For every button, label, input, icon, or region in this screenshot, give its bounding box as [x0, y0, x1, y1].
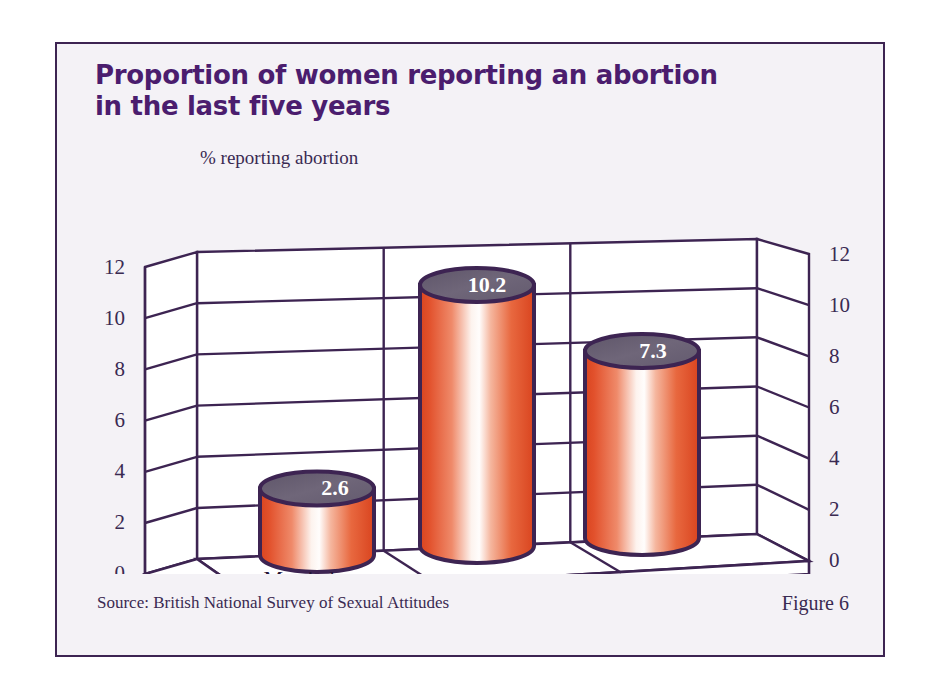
bar-single: 7.3 [585, 334, 699, 555]
figure-title-line-2: in the last five years [95, 91, 735, 122]
figure-root: Proportion of women reporting an abortio… [0, 0, 936, 695]
y-tick-right-6: 6 [829, 395, 840, 419]
figure-title: Proportion of women reporting an abortio… [95, 60, 735, 121]
bar-value-single: 7.3 [639, 338, 667, 363]
y-tick-right-8: 8 [829, 344, 840, 368]
y-tick-left-12: 12 [104, 255, 125, 279]
y-tick-left-8: 8 [115, 357, 126, 381]
y-tick-right-2: 2 [829, 497, 840, 521]
y-tick-left-0: 0 [115, 561, 126, 574]
bar-married: 2.6 [260, 472, 374, 573]
figure-label: Figure 6 [782, 592, 849, 615]
y-axis-right: 12 10 8 6 4 2 0 [829, 242, 850, 572]
y-axis-caption: % reporting abortion [200, 147, 358, 169]
source-note: Source: British National Survey of Sexua… [97, 593, 449, 613]
y-tick-right-4: 4 [829, 446, 840, 470]
chart-plot-area: 2.6 10.2 7.3 Married Cohabiting Single 1… [57, 174, 883, 574]
y-tick-left-10: 10 [104, 306, 125, 330]
bar-cohabiting: 10.2 [420, 268, 534, 563]
figure-frame: Proportion of women reporting an abortio… [55, 42, 885, 657]
y-tick-right-12: 12 [829, 242, 850, 266]
y-tick-left-2: 2 [115, 510, 126, 534]
y-tick-right-10: 10 [829, 293, 850, 317]
y-tick-left-4: 4 [115, 459, 126, 483]
y-axis-left: 12 10 8 6 4 2 0 [104, 255, 126, 574]
bar-value-married: 2.6 [321, 475, 349, 500]
y-tick-left-6: 6 [115, 408, 126, 432]
bar-value-cohabiting: 10.2 [468, 272, 507, 297]
category-label-married: Married [264, 566, 335, 574]
figure-title-line-1: Proportion of women reporting an abortio… [95, 60, 735, 91]
y-tick-right-0: 0 [829, 548, 840, 572]
